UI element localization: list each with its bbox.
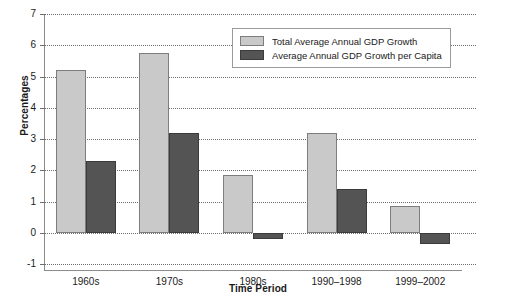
y-tick-label: 6 [12, 40, 36, 50]
legend-item-per-capita: Average Annual GDP Growth per Capita [240, 48, 442, 62]
y-tick-label: 2 [12, 165, 36, 175]
y-tick-label: 1 [12, 197, 36, 207]
x-axis-line [44, 270, 462, 271]
bar [86, 161, 116, 233]
y-tick-mark [40, 264, 45, 265]
chart-legend: Total Average Annual GDP Growth Average … [232, 28, 451, 68]
gridline [44, 139, 476, 140]
legend-swatch-total-icon [240, 36, 264, 46]
y-tick-mark [40, 139, 45, 140]
legend-swatch-per-capita-icon [240, 50, 264, 60]
legend-label-per-capita: Average Annual GDP Growth per Capita [272, 50, 442, 61]
gridline [44, 77, 476, 78]
bar [169, 133, 199, 233]
x-axis-title: Time Period [38, 283, 478, 294]
legend-label-total: Total Average Annual GDP Growth [272, 36, 417, 47]
bar [307, 133, 337, 233]
bar [337, 189, 367, 233]
bar [139, 53, 169, 233]
y-tick-label: 0 [12, 228, 36, 238]
y-tick-mark [40, 45, 45, 46]
bar [223, 175, 253, 233]
y-tick-label: 5 [12, 72, 36, 82]
bar [420, 233, 450, 244]
y-tick-mark [40, 77, 45, 78]
y-tick-mark [40, 14, 45, 15]
y-tick-mark [40, 108, 45, 109]
y-tick-label: 7 [12, 9, 36, 19]
y-tick-label: 3 [12, 134, 36, 144]
y-tick-mark [40, 170, 45, 171]
gdp-growth-bar-chart: Percentages 76543210-1 1960s1970s1980s19… [0, 0, 506, 304]
gridline [44, 108, 476, 109]
y-tick-mark [40, 202, 45, 203]
y-axis-line [44, 14, 45, 270]
bar [390, 206, 420, 233]
legend-item-total: Total Average Annual GDP Growth [240, 34, 442, 48]
bar [56, 70, 86, 233]
gridline [44, 14, 476, 15]
y-tick-label: -1 [12, 259, 36, 269]
bar [253, 233, 283, 239]
gridline [44, 264, 476, 265]
y-tick-label: 4 [12, 103, 36, 113]
y-tick-mark [40, 233, 45, 234]
